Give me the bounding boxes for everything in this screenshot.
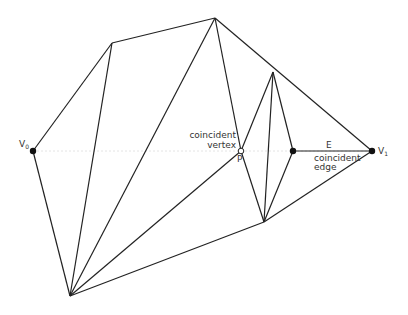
edge-b-p <box>241 72 273 151</box>
vertex-v1-dot <box>369 148 375 154</box>
coincident-vertex-label-line2: vertex <box>207 140 236 150</box>
triangulation-diagram: V0 V1 coincident vertex P E coincident e… <box>0 0 408 315</box>
vertex-v0-dot <box>30 148 36 154</box>
edge-c-bot <box>70 222 264 296</box>
edge-v0-a <box>33 43 112 151</box>
coincident-vertex-label-line1: coincident <box>189 130 236 140</box>
v0-label: V0 <box>19 139 29 150</box>
edge-a-t <box>112 18 215 43</box>
coincident-edge-label-line2: edge <box>314 162 337 172</box>
p-label: P <box>237 154 243 164</box>
edge-q-c <box>264 151 293 222</box>
vertex-p-open-dot <box>238 148 244 154</box>
vertex-q-dot <box>290 148 296 154</box>
edge-bot-t <box>70 18 215 296</box>
e-label: E <box>326 140 332 150</box>
edge-t-v1 <box>215 18 372 151</box>
edge-bot-p <box>70 151 241 296</box>
edge-bot-v0 <box>33 151 70 296</box>
edge-p-c <box>241 151 264 222</box>
edge-b-c <box>264 72 273 222</box>
edge-bot-a <box>70 43 112 296</box>
edge-b-q <box>273 72 293 151</box>
v1-label: V1 <box>378 146 388 157</box>
